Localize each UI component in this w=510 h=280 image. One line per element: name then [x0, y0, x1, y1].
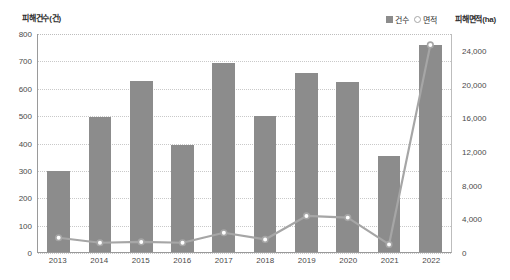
- line-series: [38, 34, 451, 252]
- x-axis-tick-2018: 2018: [245, 256, 287, 265]
- y-axis-left-tick-label: 400: [19, 139, 32, 148]
- y-axis-left-title: 피해건수(건): [22, 12, 61, 23]
- x-axis-ticks: 2013201420152016201720182019202020212022: [37, 256, 452, 265]
- y-axis-left-ticks: 0100200300400500600700800: [0, 34, 32, 253]
- y-axis-left-tick-label: 0: [28, 249, 32, 258]
- x-axis-tick-2015: 2015: [120, 256, 162, 265]
- gridline: [38, 253, 451, 254]
- line-path: [59, 45, 431, 245]
- y-axis-right-tick-label: 16,000: [462, 114, 486, 123]
- y-axis-right-title: 피해면적(ha): [455, 13, 496, 24]
- legend-label-bar: 건수: [395, 14, 409, 25]
- y-axis-left-tick-label: 100: [19, 221, 32, 230]
- legend-circle-icon: [414, 16, 421, 23]
- y-axis-right-tick-label: 12,000: [462, 147, 486, 156]
- line-marker-2020: [345, 215, 351, 221]
- x-axis-tick-2022: 2022: [411, 256, 453, 265]
- x-axis-tick-2013: 2013: [37, 256, 79, 265]
- y-axis-left-tick-label: 200: [19, 194, 32, 203]
- x-axis-tick-2016: 2016: [162, 256, 204, 265]
- legend-item-line: 면적: [414, 14, 437, 25]
- legend-label-line: 면적: [423, 14, 437, 25]
- legend-item-bar: 건수: [386, 14, 409, 25]
- line-marker-2018: [262, 237, 268, 243]
- y-axis-right-ticks: 04,0008,00012,00016,00020,00024,000: [462, 34, 508, 253]
- line-marker-2017: [221, 230, 227, 236]
- y-axis-right-tick-label: 24,000: [462, 46, 486, 55]
- x-axis-tick-2020: 2020: [328, 256, 370, 265]
- x-axis-tick-2021: 2021: [369, 256, 411, 265]
- line-marker-2015: [138, 239, 144, 245]
- y-axis-left-tick-label: 500: [19, 112, 32, 121]
- y-axis-right-tick-label: 20,000: [462, 80, 486, 89]
- legend-square-icon: [386, 16, 393, 23]
- y-axis-left-tick-label: 800: [19, 30, 32, 39]
- line-marker-2014: [97, 240, 103, 246]
- x-axis-tick-2017: 2017: [203, 256, 245, 265]
- chart-container: 피해건수(건) 피해면적(ha) 건수 면적 01002003004005006…: [0, 0, 510, 280]
- chart-legend: 건수 면적: [386, 14, 437, 25]
- line-marker-2021: [386, 242, 392, 248]
- y-axis-left-tick-label: 700: [19, 57, 32, 66]
- y-axis-left-tick-label: 300: [19, 166, 32, 175]
- y-axis-right-tick-label: 8,000: [462, 181, 482, 190]
- y-axis-right-tick-label: 4,000: [462, 215, 482, 224]
- y-axis-left-tick-label: 600: [19, 84, 32, 93]
- x-axis-tick-2014: 2014: [79, 256, 121, 265]
- plot-area: [37, 34, 452, 253]
- x-axis-tick-2019: 2019: [286, 256, 328, 265]
- line-marker-2016: [180, 240, 186, 246]
- line-marker-2013: [56, 235, 62, 241]
- line-marker-2019: [304, 213, 310, 219]
- y-axis-right-tick-label: 0: [462, 249, 466, 258]
- line-marker-2022: [428, 42, 434, 48]
